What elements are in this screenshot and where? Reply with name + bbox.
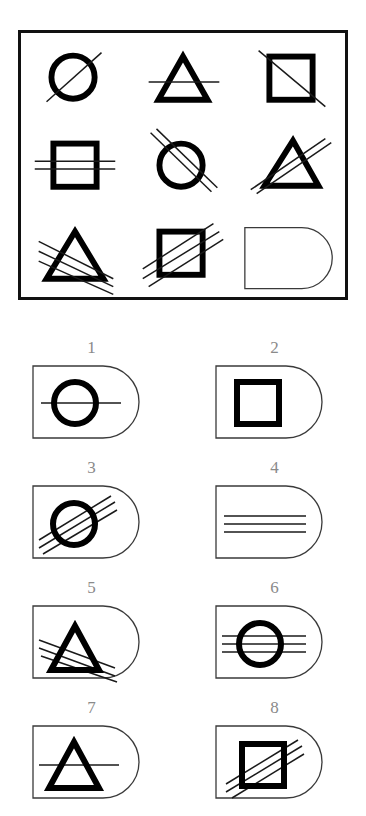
option-1[interactable]: 1 — [0, 336, 183, 451]
square-glyph — [237, 382, 279, 424]
option-4[interactable]: 4 — [183, 456, 366, 571]
matrix-cell-r2c1[interactable] — [21, 121, 129, 209]
option-8-number: 8 — [270, 696, 279, 718]
option-3[interactable]: 3 — [0, 456, 183, 571]
matrix-frame — [18, 30, 348, 300]
option-2-number: 2 — [270, 336, 279, 358]
square-glyph — [53, 144, 96, 187]
option-5[interactable]: 5 — [0, 576, 183, 691]
circle-glyph — [53, 503, 95, 545]
option-6[interactable]: 6 — [183, 576, 366, 691]
option-6-number: 6 — [270, 576, 279, 598]
triangle-glyph — [264, 141, 318, 186]
matrix-cell-r2c3[interactable] — [237, 121, 345, 209]
option-4-number: 4 — [270, 456, 279, 478]
square-glyph — [159, 231, 202, 274]
matrix-cell-r1c3[interactable] — [237, 33, 345, 121]
matrix-cell-r3c1[interactable] — [21, 210, 129, 298]
option-1-art — [27, 358, 157, 446]
overlay-line — [39, 640, 115, 668]
matrix-grid — [21, 33, 345, 297]
circle-glyph — [159, 144, 202, 187]
option-5-number: 5 — [87, 576, 96, 598]
matrix-cell-r3c3-answer-slot[interactable] — [237, 210, 345, 298]
option-7-art — [27, 718, 157, 806]
option-7-number: 7 — [87, 696, 96, 718]
options-grid: 1 2 3 — [0, 336, 366, 811]
option-5-art — [27, 598, 157, 686]
option-outline — [216, 486, 322, 558]
answer-slot-outline — [245, 227, 332, 288]
option-1-number: 1 — [87, 336, 96, 358]
matrix-cell-r3c2[interactable] — [129, 210, 237, 298]
option-outline — [216, 606, 322, 678]
matrix-cell-r1c1[interactable] — [21, 33, 129, 121]
triangle-glyph — [51, 626, 99, 670]
option-outline — [33, 366, 139, 438]
option-7[interactable]: 7 — [0, 696, 183, 811]
matrix-reasoning-puzzle: 1 2 3 — [0, 0, 366, 816]
overlay-line — [143, 231, 220, 278]
option-3-number: 3 — [87, 456, 96, 478]
option-8[interactable]: 8 — [183, 696, 366, 811]
option-outline — [216, 366, 322, 438]
option-3-art — [27, 478, 157, 566]
triangle-glyph — [47, 231, 104, 278]
option-outline — [33, 486, 139, 558]
triangle-glyph — [158, 57, 207, 100]
option-2[interactable]: 2 — [183, 336, 366, 451]
option-8-art — [210, 718, 340, 806]
option-6-art — [210, 598, 340, 686]
matrix-cell-r2c2[interactable] — [129, 121, 237, 209]
matrix-cell-r1c2[interactable] — [129, 33, 237, 121]
option-4-art — [210, 478, 340, 566]
option-2-art — [210, 358, 340, 446]
